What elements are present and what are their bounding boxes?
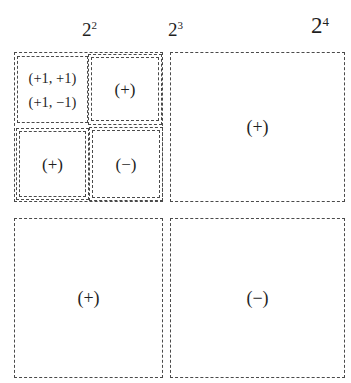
main-cell-bottom-right: (−) xyxy=(170,218,345,378)
main-cell-bottom-left: (+) xyxy=(14,218,163,378)
diagram-canvas: 22 23 24 (+1, +1) (+1, −1) (+) (+) (−) (… xyxy=(0,0,351,383)
sign-label: (+) xyxy=(92,81,158,98)
coordinate-stack: (+1, +1) (+1, −1) xyxy=(18,65,87,114)
sign-label: (+) xyxy=(171,118,344,136)
sign-label: (−) xyxy=(93,156,159,173)
coordinate-line-2: (+1, −1) xyxy=(18,90,87,115)
axis-label-base: 2 xyxy=(82,19,92,40)
nested-cell-bottom-right: (−) xyxy=(92,130,160,198)
main-cell-top-right: (+) xyxy=(170,52,345,202)
axis-label-pow-2-4: 24 xyxy=(311,14,329,37)
sign-label: (+) xyxy=(15,289,162,307)
axis-label-exponent: 2 xyxy=(92,19,98,31)
axis-label-pow-2-2: 22 xyxy=(82,20,97,39)
nested-cell-bottom-left: (+) xyxy=(19,131,86,197)
nested-cell-top-right: (+) xyxy=(91,57,159,121)
axis-label-exponent: 3 xyxy=(178,19,184,31)
axis-label-exponent: 4 xyxy=(323,14,330,29)
nested-cell-top-left: (+1, +1) (+1, −1) xyxy=(17,56,88,123)
coordinate-line-1: (+1, +1) xyxy=(18,65,87,90)
sign-label: (+) xyxy=(20,156,85,173)
axis-label-pow-2-3: 23 xyxy=(168,20,183,39)
sign-label: (−) xyxy=(171,289,344,307)
axis-label-base: 2 xyxy=(168,19,178,40)
axis-label-base: 2 xyxy=(311,13,323,38)
